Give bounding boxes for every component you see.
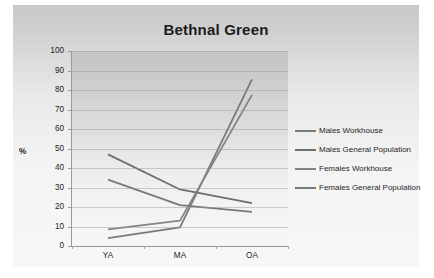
chart-legend: Males WorkhouseMales General PopulationF…	[295, 121, 419, 197]
y-axis-tick-mark	[68, 51, 71, 52]
x-axis-tick-label: OA	[232, 251, 272, 260]
x-axis-tick-mark	[144, 246, 145, 249]
x-axis-tick-mark	[288, 246, 289, 249]
legend-item[interactable]: Females Workhouse	[295, 159, 419, 178]
y-axis-tick-label: 10	[40, 223, 64, 231]
legend-label: Males Workhouse	[319, 126, 383, 135]
legend-line-icon	[295, 130, 316, 132]
y-axis-tick-label: 40	[40, 164, 64, 172]
legend-line-icon	[295, 149, 316, 151]
y-axis-tick-label: 0	[40, 242, 64, 250]
y-axis-tick-label: 70	[40, 106, 64, 114]
chart-panel: Bethnal Green 1009080706050403020100 % Y…	[13, 5, 419, 267]
y-axis-tick-mark	[68, 149, 71, 150]
y-axis-tick-mark	[68, 227, 71, 228]
legend-item[interactable]: Males Workhouse	[295, 121, 419, 140]
x-axis-tick-mark	[216, 246, 217, 249]
x-axis-tick-mark	[72, 246, 73, 249]
y-axis-tick-mark	[68, 129, 71, 130]
x-axis-tick-label: MA	[160, 251, 200, 260]
y-axis-tick-mark	[68, 168, 71, 169]
y-axis-tick-label: 90	[40, 67, 64, 75]
legend-label: Females Workhouse	[319, 164, 392, 173]
y-axis-tick-label: 50	[40, 145, 64, 153]
y-axis-tick-mark	[68, 90, 71, 91]
y-axis-tick-label: 30	[40, 184, 64, 192]
chart-figure: Bethnal Green 1009080706050403020100 % Y…	[0, 0, 434, 278]
y-axis-tick-mark	[68, 188, 71, 189]
y-axis-tick-mark	[68, 207, 71, 208]
y-axis-tick-label: 100	[40, 47, 64, 55]
legend-label: Males General Population	[319, 145, 411, 154]
y-axis-tick-label: 60	[40, 125, 64, 133]
legend-item[interactable]: Females General Population	[295, 178, 419, 197]
legend-label: Females General Population	[319, 183, 420, 192]
y-axis-tick-label: 20	[40, 203, 64, 211]
y-axis-tick-label: 80	[40, 86, 64, 94]
x-axis-tick-label: YA	[88, 251, 128, 260]
legend-line-icon	[295, 187, 316, 189]
y-axis-tick-mark	[68, 71, 71, 72]
y-axis-tick-mark	[68, 110, 71, 111]
y-axis-title: %	[19, 147, 26, 156]
legend-item[interactable]: Males General Population	[295, 140, 419, 159]
legend-line-icon	[295, 168, 316, 170]
y-axis-tick-mark	[68, 246, 71, 247]
